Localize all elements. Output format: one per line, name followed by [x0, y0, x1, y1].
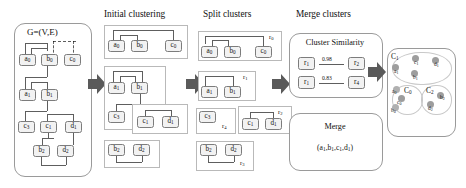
- split-node-b2: b2: [200, 144, 217, 156]
- node-label: c0: [70, 56, 76, 63]
- edge-b2-down: [41, 157, 42, 165]
- split-node-d2: d2: [225, 144, 242, 156]
- result-point-label-b0: b0: [391, 107, 396, 114]
- similarity-row1-right: r2: [348, 57, 365, 70]
- initial-node-b0: b0: [131, 40, 148, 52]
- node-label: c0: [261, 48, 267, 55]
- similarity-row1-score: 0.98: [322, 56, 332, 62]
- edge-a0-b0-top: [25, 43, 47, 44]
- ic1-edge-a0-up: [113, 30, 114, 40]
- split-node-a1: a1: [201, 86, 218, 98]
- result-cluster-label-c1: C1: [391, 52, 399, 61]
- initial-node-b2: b2: [108, 144, 125, 156]
- graph-node-a1: a1: [19, 89, 36, 101]
- edge-c1-up: [47, 114, 48, 121]
- r3-edge-bottom: [208, 162, 234, 163]
- node-label: b1: [136, 84, 142, 91]
- r1-edge-top: [205, 76, 233, 77]
- node-label: d2: [230, 146, 236, 153]
- node-label: c1: [46, 123, 52, 130]
- region-label-r0: r0: [269, 33, 273, 41]
- initial-node-a0: a0: [108, 40, 125, 52]
- result-point-label-d2: d2: [428, 105, 433, 112]
- r3-edge-d2-down: [234, 156, 235, 162]
- node-label: a0: [207, 48, 213, 55]
- ic2-edge-inner: [120, 76, 135, 77]
- similarity-row1-link: [319, 64, 344, 65]
- r1-edge-a1-up: [205, 76, 206, 86]
- ic4-edge-bottom: [116, 162, 142, 163]
- stage-header-initial: Initial clustering: [104, 9, 165, 19]
- node-label: d2: [62, 147, 68, 154]
- ic2-edge-b1-down: [140, 94, 141, 104]
- node-label: a1: [25, 91, 31, 98]
- ic1-edge-top: [113, 30, 173, 31]
- split-node-b1: b1: [224, 86, 241, 98]
- node-label: b0: [46, 56, 52, 63]
- node-label: c3: [205, 113, 211, 120]
- r1-edge-b1-up: [233, 76, 234, 86]
- region-label-r4: r4: [222, 122, 226, 130]
- node-label: a1: [114, 84, 120, 91]
- graph-node-b0: b0: [41, 54, 58, 66]
- node-label: b2: [38, 147, 44, 154]
- region-label-r3: r3: [240, 159, 244, 167]
- ic2-edge-c3-up: [116, 104, 117, 111]
- edge-b2-d2-bottom: [41, 165, 66, 166]
- edge-b1-c3-link: [25, 111, 47, 112]
- graph-title: G=(V,E): [27, 27, 58, 37]
- similarity-row1-left: r1: [298, 57, 315, 70]
- node-label: r2: [354, 60, 359, 67]
- ic2-edge-top: [113, 71, 142, 72]
- r2-edge-top: [250, 112, 273, 113]
- r0-edge-a0-up: [205, 36, 206, 44]
- result-cluster-label-c0: C0: [404, 86, 412, 95]
- graph-node-d1: d1: [65, 121, 82, 133]
- node-label: d1: [270, 120, 276, 127]
- similarity-row2-score: 0.83: [322, 75, 332, 81]
- graph-node-c0: c0: [64, 54, 81, 66]
- initial-node-a1: a1: [108, 82, 125, 94]
- ic3-edge-top: [145, 110, 171, 111]
- result-point-label-b2: b2: [440, 94, 445, 101]
- result-point-label-b1: b1: [413, 74, 418, 81]
- split-node-c3: c3: [199, 111, 216, 123]
- stage-header-split: Split clusters: [203, 9, 251, 19]
- result-cluster-halo-c1: [392, 52, 452, 85]
- edge-c1-d1-top: [47, 114, 73, 115]
- node-label: c0: [171, 42, 177, 49]
- edge-b0-down: [47, 66, 48, 77]
- edge-a1-b1-top: [31, 82, 47, 83]
- edge-d2-down: [66, 157, 67, 165]
- figure-canvas: Initial clustering Split clusters Merge …: [0, 0, 466, 188]
- edge-b2-up: [42, 138, 43, 145]
- edge-b0-up: [47, 43, 48, 51]
- node-label: d1: [70, 123, 76, 130]
- node-label: b0: [136, 42, 142, 49]
- node-label: c1: [248, 120, 254, 127]
- similarity-row2-link: [319, 83, 344, 84]
- arrow-merge-to-result: [368, 62, 386, 86]
- edge-b1-inner-down: [47, 82, 48, 89]
- initial-node-c0: c0: [165, 40, 182, 52]
- ic2-edge-b1-up: [142, 71, 143, 82]
- edge-c1-b2-stub: [42, 138, 54, 139]
- edge-a0-up: [25, 43, 26, 54]
- r0-edge-c0-down: [263, 36, 264, 46]
- edge-b0-a1-link: [25, 77, 47, 78]
- graph-node-b2: b2: [33, 145, 50, 157]
- stage-header-merge: Merge clusters: [296, 9, 351, 19]
- edge-a0-b0-inner: [31, 48, 47, 49]
- node-label: r4: [354, 79, 359, 86]
- similarity-row2-left: r1: [298, 76, 315, 89]
- node-label: b2: [205, 146, 211, 153]
- node-label: b1: [46, 91, 52, 98]
- ic2-edge-a1-up: [113, 71, 114, 82]
- arrow-split-to-merge: [272, 74, 290, 98]
- r0-edge-inner: [212, 40, 228, 41]
- region-label-r1: r1: [243, 73, 247, 81]
- node-label: c1: [143, 118, 149, 125]
- graph-node-c1: c1: [40, 121, 57, 133]
- node-label: a0: [25, 56, 31, 63]
- split-node-d1: d1: [265, 118, 282, 130]
